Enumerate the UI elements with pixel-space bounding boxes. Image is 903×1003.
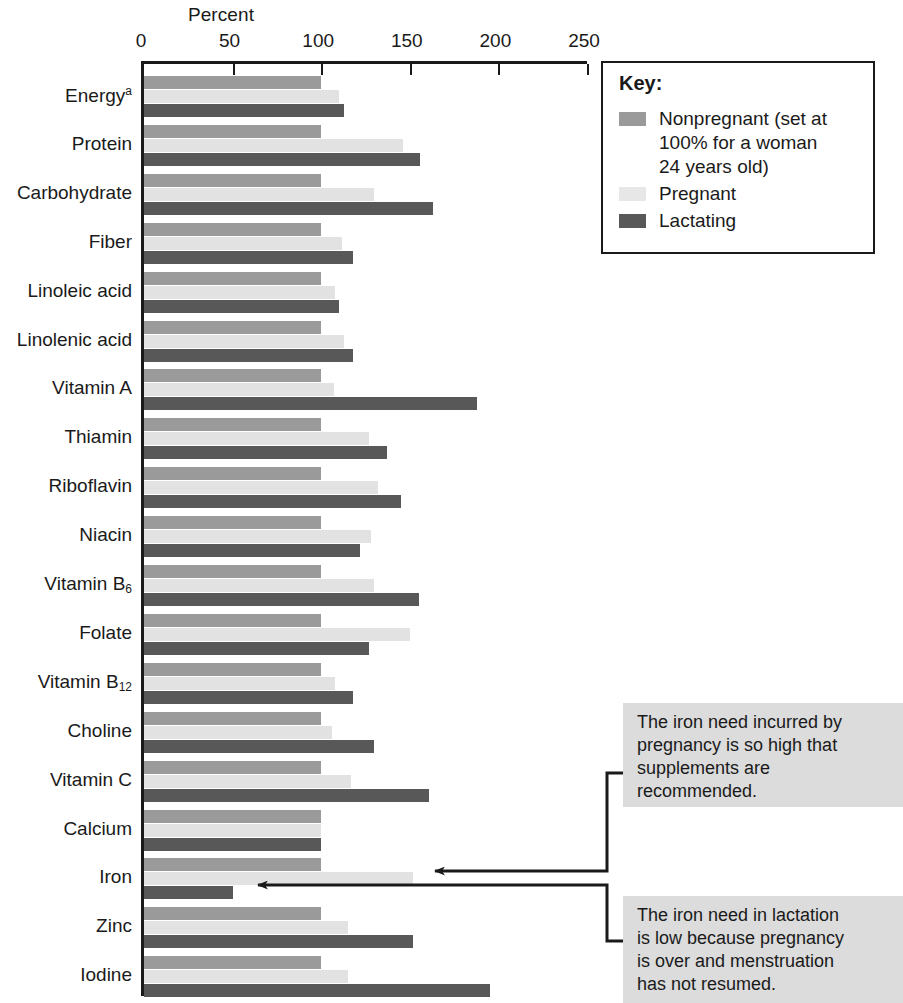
bar-group-linoleic-acid (144, 272, 587, 313)
bar-lactating (144, 886, 233, 899)
bar-lactating (144, 593, 419, 606)
category-label-iron: Iron (0, 866, 132, 888)
category-label-folate: Folate (0, 622, 132, 644)
bar-nonpregnant (144, 369, 321, 382)
category-label-choline: Choline (0, 720, 132, 742)
bar-group-energy (144, 76, 587, 117)
x-tick-mark-250 (587, 64, 589, 75)
bar-pregnant (144, 970, 348, 983)
bar-nonpregnant (144, 223, 321, 236)
bar-nonpregnant (144, 956, 321, 969)
bar-group-vitamin-c (144, 761, 587, 802)
bar-nonpregnant (144, 907, 321, 920)
bar-group-niacin (144, 516, 587, 557)
category-label-linoleic-acid: Linoleic acid (0, 280, 132, 302)
chart-title: Percent (0, 4, 442, 26)
bar-lactating (144, 349, 353, 362)
callout-pregnancy-iron: The iron need incurred by pregnancy is s… (623, 703, 903, 807)
bar-pregnant (144, 921, 348, 934)
bar-pregnant (144, 139, 403, 152)
bar-lactating (144, 397, 477, 410)
category-label-vitamin-b6: Vitamin B6 (0, 573, 132, 596)
bar-group-vitamin-a (144, 369, 587, 410)
x-axis-tick-labels: 050100150200250 (141, 30, 587, 54)
bar-pregnant (144, 824, 321, 837)
legend-item-nonpregnant: Nonpregnant (set at 100% for a woman 24 … (619, 107, 861, 179)
bar-pregnant (144, 237, 342, 250)
legend-item-label: Pregnant (659, 182, 736, 206)
bar-pregnant (144, 383, 334, 396)
legend-swatch-icon (619, 112, 646, 126)
bar-lactating (144, 202, 433, 215)
bar-nonpregnant (144, 858, 321, 871)
bar-nonpregnant (144, 418, 321, 431)
bar-group-folate (144, 614, 587, 655)
bar-pregnant (144, 188, 374, 201)
bar-nonpregnant (144, 565, 321, 578)
bar-nonpregnant (144, 663, 321, 676)
x-tick-label-200: 200 (480, 30, 512, 52)
legend-items: Nonpregnant (set at 100% for a woman 24 … (619, 107, 861, 233)
x-tick-label-0: 0 (136, 30, 147, 52)
bar-group-linolenic-acid (144, 321, 587, 362)
bar-pregnant (144, 775, 351, 788)
bar-lactating (144, 544, 360, 557)
category-label-iodine: Iodine (0, 964, 132, 986)
bar-lactating (144, 104, 344, 117)
category-label-linolenic-acid: Linolenic acid (0, 329, 132, 351)
x-tick-label-250: 250 (568, 30, 600, 52)
category-label-vitamin-b12: Vitamin B12 (0, 671, 132, 694)
bar-lactating (144, 691, 353, 704)
category-label-niacin: Niacin (0, 524, 132, 546)
bar-nonpregnant (144, 125, 321, 138)
bar-pregnant (144, 677, 335, 690)
category-label-vitamin-a: Vitamin A (0, 377, 132, 399)
bar-group-iodine (144, 956, 587, 997)
bar-pregnant (144, 579, 374, 592)
bar-pregnant (144, 726, 332, 739)
legend-item-lactating: Lactating (619, 209, 861, 233)
bar-lactating (144, 740, 374, 753)
bar-nonpregnant (144, 321, 321, 334)
bar-lactating (144, 446, 387, 459)
bar-pregnant (144, 286, 335, 299)
legend-item-label: Lactating (659, 209, 736, 233)
bar-nonpregnant (144, 761, 321, 774)
bar-lactating (144, 935, 413, 948)
bar-group-protein (144, 125, 587, 166)
bar-nonpregnant (144, 174, 321, 187)
bar-lactating (144, 789, 429, 802)
bar-lactating (144, 495, 401, 508)
bar-lactating (144, 838, 321, 851)
bar-group-calcium (144, 810, 587, 851)
legend-swatch-icon (619, 187, 646, 201)
legend-swatch-icon (619, 214, 646, 228)
category-label-riboflavin: Riboflavin (0, 475, 132, 497)
bar-nonpregnant (144, 614, 321, 627)
bar-group-zinc (144, 907, 587, 948)
plot-area: EnergyaProteinCarbohydrateFiberLinoleic … (144, 64, 587, 996)
bar-pregnant (144, 628, 410, 641)
bar-lactating (144, 251, 353, 264)
category-label-fiber: Fiber (0, 231, 132, 253)
bar-group-iron (144, 858, 587, 899)
bar-nonpregnant (144, 810, 321, 823)
legend-title: Key: (619, 72, 861, 95)
bar-lactating (144, 153, 420, 166)
bar-group-thiamin (144, 418, 587, 459)
category-label-energy: Energya (0, 84, 132, 107)
bar-lactating (144, 300, 339, 313)
bar-group-choline (144, 712, 587, 753)
legend-item-pregnant: Pregnant (619, 182, 861, 206)
legend-key: Key: Nonpregnant (set at 100% for a woma… (601, 61, 875, 254)
x-tick-label-100: 100 (302, 30, 334, 52)
bar-lactating (144, 642, 369, 655)
bar-group-fiber (144, 223, 587, 264)
bar-pregnant (144, 872, 413, 885)
category-label-carbohydrate: Carbohydrate (0, 182, 132, 204)
category-label-thiamin: Thiamin (0, 426, 132, 448)
bar-pregnant (144, 335, 344, 348)
callout-lactation-iron: The iron need in lactation is low becaus… (623, 896, 903, 1003)
x-tick-label-50: 50 (219, 30, 240, 52)
x-tick-label-150: 150 (391, 30, 423, 52)
